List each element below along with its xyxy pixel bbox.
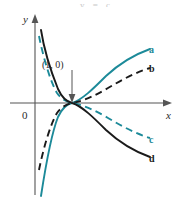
origin-label: 0 <box>22 110 28 121</box>
x-axis-arrowhead <box>163 100 172 107</box>
curve-a <box>41 49 150 196</box>
x-axis <box>10 100 172 107</box>
point-label-1-0: (1, 0) <box>42 60 64 70</box>
y-axis <box>32 14 39 195</box>
curve-label-b: b <box>149 64 155 74</box>
x-axis-label: x <box>166 110 171 121</box>
y-axis-arrowhead <box>32 14 39 23</box>
logarithm-graph-figure: y = c y x 0 (1, 0) a b c d <box>0 0 193 209</box>
plot-canvas <box>0 0 193 209</box>
curve-label-c: c <box>149 135 153 145</box>
curve-label-a: a <box>149 45 154 55</box>
y-axis-label: y <box>23 14 28 25</box>
curve-label-d: d <box>149 154 155 164</box>
point-annotation-arrow <box>69 70 76 103</box>
